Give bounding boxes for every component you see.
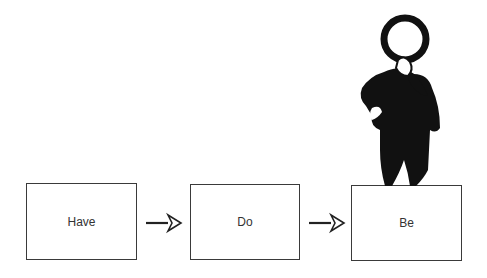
- arrow-right-icon: [146, 215, 181, 231]
- diagram-graphics: [0, 0, 487, 278]
- arrow-right-icon: [309, 215, 344, 231]
- thinking-man-icon: [361, 18, 440, 186]
